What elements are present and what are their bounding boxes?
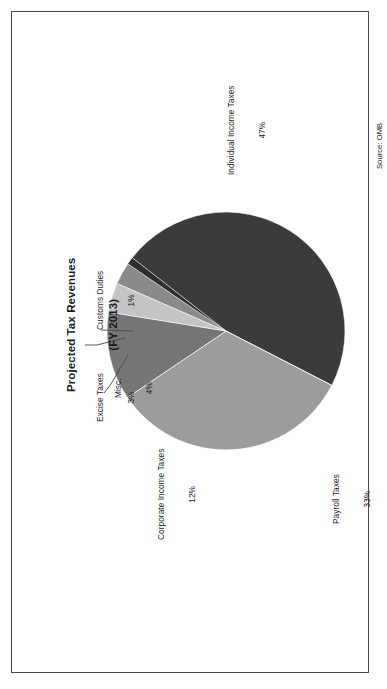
source-note: Source: OMB	[356, 123, 387, 169]
slice-label-corporate-income-taxes: Corporate Income Taxes 12%	[136, 449, 217, 540]
slice-label-individual-income-taxes-value: 47%	[257, 85, 267, 175]
slice-label-payroll-taxes-value: 33%	[362, 474, 372, 524]
slice-label-customs-duties-name: Customs Duties	[95, 271, 105, 330]
slice-label-customs-duties-value: 1%	[126, 271, 136, 330]
source-note-text: Source: OMB	[375, 123, 384, 169]
slice-label-excise-taxes-name: Excise Taxes	[95, 373, 105, 422]
slice-label-corporate-income-taxes-name: Corporate Income Taxes	[156, 449, 166, 540]
slice-label-payroll-taxes: Payroll Taxes 33%	[311, 474, 387, 524]
slice-label-individual-income-taxes-name: Individual Income Taxes	[226, 85, 236, 175]
slice-label-excise-taxes: Excise Taxes 3%	[75, 373, 156, 422]
slice-label-excise-taxes-value: 3%	[126, 373, 136, 422]
slice-label-customs-duties: Customs Duties 1%	[75, 271, 156, 330]
slice-label-corporate-income-taxes-value: 12%	[187, 449, 197, 540]
slice-label-individual-income-taxes: Individual Income Taxes 47%	[206, 85, 287, 175]
slice-label-payroll-taxes-name: Payroll Taxes	[331, 474, 341, 524]
